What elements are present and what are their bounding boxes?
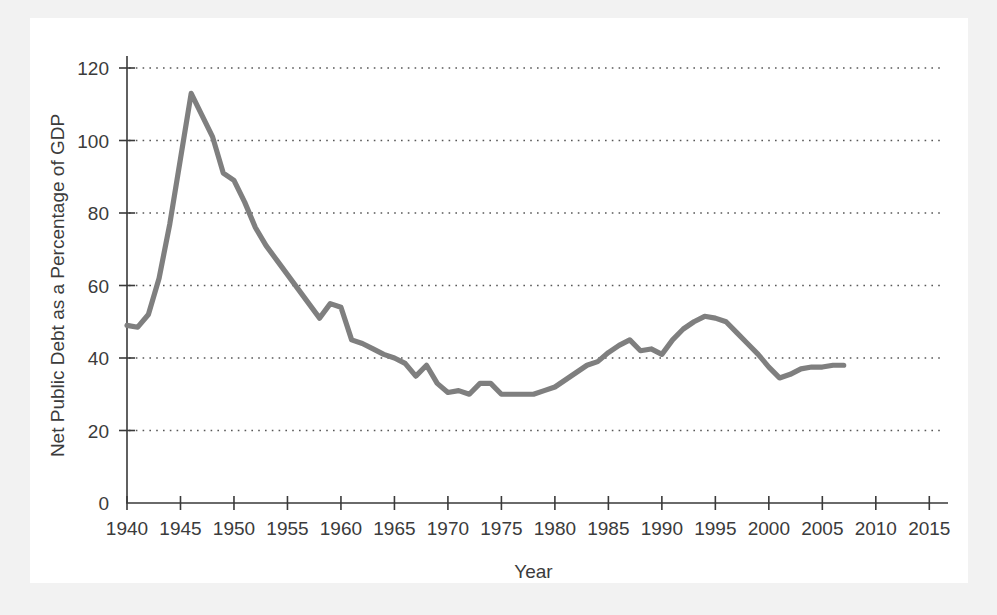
y-tick-label-20: 20	[88, 421, 109, 442]
axis-lines	[127, 56, 948, 503]
x-tick-label-1970: 1970	[427, 518, 469, 539]
x-tick-label-1995: 1995	[694, 518, 736, 539]
x-tick-label-1965: 1965	[373, 518, 415, 539]
y-tick-label-60: 60	[88, 276, 109, 297]
x-tick-label-2005: 2005	[801, 518, 843, 539]
gridlines-group	[129, 68, 940, 431]
x-tick-label-1955: 1955	[266, 518, 308, 539]
x-tick-label-1945: 1945	[159, 518, 201, 539]
x-tick-label-1990: 1990	[641, 518, 683, 539]
x-tick-label-1985: 1985	[587, 518, 629, 539]
x-tick-label-1980: 1980	[534, 518, 576, 539]
y-tick-label-120: 120	[77, 58, 109, 79]
y-tick-labels-group: 020406080100120	[77, 58, 109, 514]
chart-panel: 1940194519501955196019651970197519801985…	[30, 18, 968, 583]
x-tick-label-1950: 1950	[213, 518, 255, 539]
x-tick-label-2010: 2010	[855, 518, 897, 539]
x-axis-title: Year	[514, 561, 553, 582]
x-tick-label-1960: 1960	[320, 518, 362, 539]
x-tick-labels-group: 1940194519501955196019651970197519801985…	[106, 518, 951, 539]
y-axis-title: Net Public Debt as a Percentage of GDP	[47, 114, 68, 457]
y-tick-label-100: 100	[77, 131, 109, 152]
y-tick-label-0: 0	[98, 493, 109, 514]
debt-series-line	[127, 93, 844, 394]
net-public-debt-line-chart: 1940194519501955196019651970197519801985…	[30, 18, 968, 583]
y-tick-label-80: 80	[88, 203, 109, 224]
x-tick-label-2015: 2015	[908, 518, 950, 539]
y-tick-label-40: 40	[88, 348, 109, 369]
axes-group	[127, 56, 948, 503]
x-tick-label-2000: 2000	[748, 518, 790, 539]
x-tick-label-1940: 1940	[106, 518, 148, 539]
x-tick-label-1975: 1975	[480, 518, 522, 539]
data-series-group	[127, 93, 844, 394]
chart-page: 1940194519501955196019651970197519801985…	[0, 0, 997, 615]
